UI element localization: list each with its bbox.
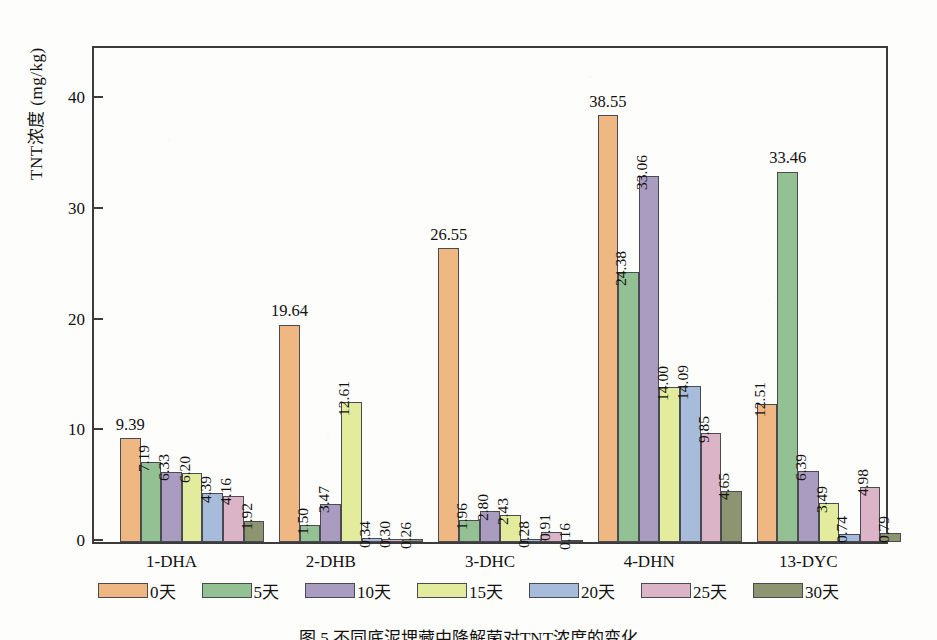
bar-group: 19.641.503.4712.610.340.300.26	[279, 48, 423, 542]
bar-value-label: 9.39	[116, 417, 145, 434]
legend-item[interactable]: 15天	[417, 578, 503, 603]
bar-value-label: 0.26	[398, 522, 414, 549]
bar-value-label: 33.06	[634, 155, 650, 190]
bar[interactable]	[777, 172, 798, 542]
legend-swatch	[417, 583, 467, 598]
x-axis-category-label: 4-DHN	[624, 552, 675, 572]
bar[interactable]	[598, 115, 619, 542]
legend-label: 0天	[150, 578, 176, 603]
bar-value-label: 38.55	[589, 94, 626, 111]
legend-item[interactable]: 0天	[98, 578, 176, 603]
bar-value-label: 3.47	[315, 486, 331, 513]
y-tick-label: 20	[68, 310, 85, 330]
bar-value-label: 26.55	[430, 227, 467, 244]
bar-value-label: 1.96	[454, 503, 470, 530]
y-tick-label: 40	[68, 88, 85, 108]
bar-value-label: 1.92	[238, 503, 254, 530]
legend-swatch	[305, 583, 355, 598]
bar-value-label: 12.61	[336, 381, 352, 416]
bar-value-label: 0.79	[875, 516, 891, 543]
bar-value-label: 14.00	[654, 366, 670, 401]
legend-label: 30天	[805, 578, 839, 603]
legend-label: 20天	[581, 578, 615, 603]
legend-item[interactable]: 20天	[529, 578, 615, 603]
bar-value-label: 0.30	[377, 521, 393, 548]
bar-value-label: 4.39	[197, 476, 213, 503]
bar-value-label: 7.19	[135, 445, 151, 472]
legend-item[interactable]: 10天	[305, 578, 391, 603]
x-axis-category-label: 3-DHC	[465, 552, 515, 572]
bar-value-label: 14.09	[675, 365, 691, 400]
bar-value-label: 0.34	[356, 521, 372, 548]
legend-swatch	[98, 583, 148, 598]
legend-label: 10天	[357, 578, 391, 603]
legend-item[interactable]: 25天	[641, 578, 727, 603]
legend-label: 15天	[469, 578, 503, 603]
bar-value-label: 6.39	[793, 454, 809, 481]
x-axis-category-label: 1-DHA	[146, 552, 197, 572]
x-axis-category-label: 2-DHB	[306, 552, 356, 572]
y-tick-label: 0	[77, 531, 86, 551]
bar[interactable]	[639, 176, 660, 542]
bar-value-label: 12.51	[752, 382, 768, 417]
bar-value-label: 2.43	[495, 498, 511, 525]
legend-swatch	[753, 583, 803, 598]
bar-value-label: 19.64	[271, 303, 308, 320]
legend-swatch	[641, 583, 691, 598]
bar[interactable]	[680, 386, 701, 542]
bar-value-label: 1.50	[295, 508, 311, 535]
legend-swatch	[529, 583, 579, 598]
bar-value-label: 4.65	[716, 473, 732, 500]
bar-value-label: 4.98	[855, 469, 871, 496]
bar-value-label: 0.91	[536, 514, 552, 541]
bar-group: 26.551.962.802.430.280.910.16	[438, 48, 582, 542]
legend-item[interactable]: 30天	[753, 578, 839, 603]
bar-value-label: 0.16	[557, 523, 573, 550]
bars-layer: 9.397.196.336.204.394.161.9219.641.503.4…	[94, 48, 886, 542]
legend-label: 5天	[254, 578, 280, 603]
bar[interactable]	[659, 387, 680, 542]
bar-group: 38.5524.3833.0614.0014.099.854.65	[598, 48, 742, 542]
legend-item[interactable]: 5天	[202, 578, 280, 603]
bar-value-label: 4.16	[218, 478, 234, 505]
bar-value-label: 2.80	[474, 493, 490, 520]
x-axis-category-label: 13-DYC	[779, 552, 838, 572]
bar-value-label: 33.46	[769, 150, 806, 167]
bar-group: 9.397.196.336.204.394.161.92	[120, 48, 264, 542]
figure-caption: 图 5 不同底泥埋藏中降解菌对TNT浓度的变化	[0, 624, 937, 640]
y-tick-label: 10	[68, 420, 85, 440]
bar-group: 12.5133.466.393.490.744.980.79	[757, 48, 901, 542]
bar-value-label: 6.33	[156, 454, 172, 481]
bar-value-label: 9.85	[695, 415, 711, 442]
bar[interactable]	[757, 404, 778, 542]
bar-value-label: 0.28	[516, 521, 532, 548]
bar-value-label: 0.74	[834, 516, 850, 543]
y-axis-title: TNT浓度 (mg/kg)	[22, 0, 47, 180]
bar[interactable]	[618, 272, 639, 542]
y-tick-label: 30	[68, 199, 85, 219]
bar-chart-figure: TNT浓度 (mg/kg) 010203040 9.397.196.336.20…	[0, 0, 937, 640]
bar-value-label: 3.49	[813, 486, 829, 513]
bar[interactable]	[438, 248, 459, 542]
bar-value-label: 6.20	[177, 456, 193, 483]
chart-legend: 0天5天10天15天20天25天30天	[0, 578, 937, 603]
legend-swatch	[202, 583, 252, 598]
bar-value-label: 24.38	[613, 251, 629, 286]
plot-area: 010203040 9.397.196.336.204.394.161.9219…	[92, 46, 888, 544]
legend-label: 25天	[693, 578, 727, 603]
